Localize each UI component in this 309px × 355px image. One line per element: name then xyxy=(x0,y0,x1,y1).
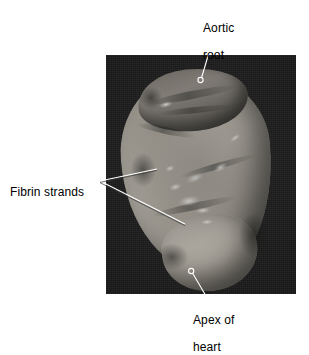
photo-vignette xyxy=(106,55,296,294)
callout-label-apex-of-heart-line2: heart xyxy=(193,341,234,355)
callout-label-fibrin-strands-line1: Fibrin strands xyxy=(10,186,84,200)
callout-label-aortic-root-line2: root xyxy=(203,49,234,63)
heart-specimen-photo xyxy=(106,55,296,294)
callout-label-fibrin-strands: Fibrin strands xyxy=(10,172,84,213)
callout-label-aortic-root-line1: Aortic xyxy=(203,22,234,36)
callout-label-apex-of-heart: Apex of heart xyxy=(193,300,234,355)
callout-label-apex-of-heart-line1: Apex of xyxy=(193,314,234,328)
callout-label-aortic-root: Aortic root xyxy=(203,8,234,76)
